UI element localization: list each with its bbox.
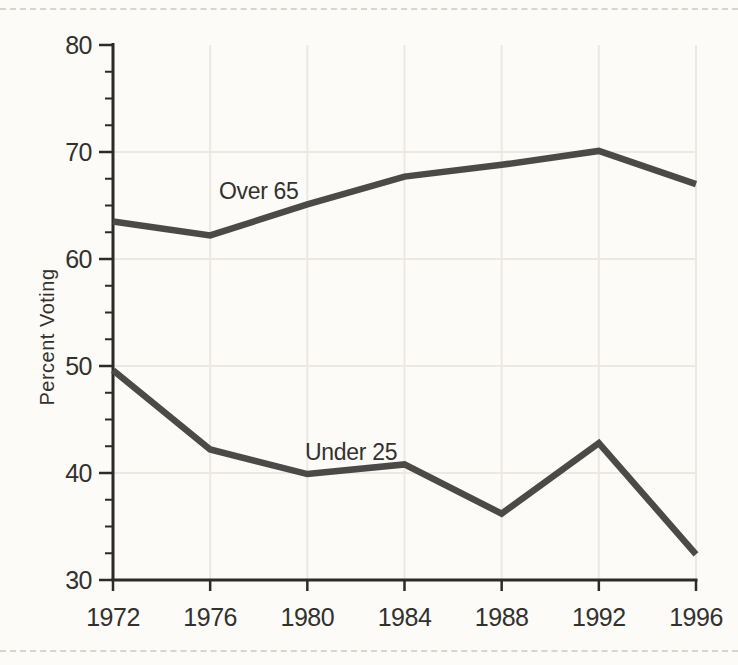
book-figure-page: Percent Voting 3040506070801972197619801… <box>0 0 738 665</box>
x-tick-label: 1976 <box>183 603 237 631</box>
x-tick-label: 1996 <box>669 603 723 631</box>
x-tick-label: 1988 <box>475 603 529 631</box>
x-tick-label: 1984 <box>378 603 432 631</box>
y-tick-label: 70 <box>65 138 92 166</box>
x-tick-label: 1972 <box>86 603 140 631</box>
page-bottom-rule <box>0 650 738 652</box>
series-label-under-25: Under 25 <box>305 439 397 465</box>
y-tick-label: 80 <box>65 31 92 59</box>
y-tick-label: 40 <box>65 459 92 487</box>
percent-voting-line-chart: 3040506070801972197619801984198819921996… <box>0 0 738 665</box>
y-tick-label: 30 <box>65 566 92 594</box>
y-tick-label: 50 <box>65 352 92 380</box>
y-tick-label: 60 <box>65 245 92 273</box>
series-label-over-65: Over 65 <box>219 178 299 204</box>
x-tick-label: 1980 <box>281 603 335 631</box>
x-tick-label: 1992 <box>572 603 626 631</box>
